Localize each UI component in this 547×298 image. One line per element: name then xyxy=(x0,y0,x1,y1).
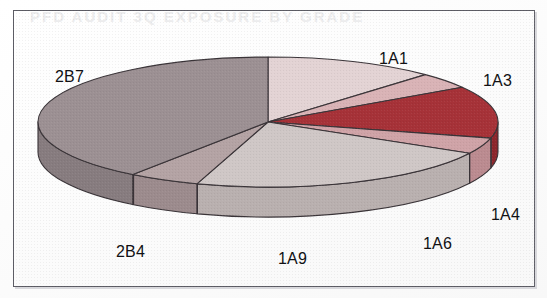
pie-label-1a4: 1A4 xyxy=(491,206,520,224)
pie-label-1a6: 1A6 xyxy=(423,235,452,253)
pie-chart-page: PFD AUDIT 3Q EXPOSURE BY GRADE 1A11A31A4… xyxy=(0,0,547,298)
pie-chart-graphic xyxy=(13,10,535,287)
pie-top-faces xyxy=(38,57,498,187)
chart-area: 1A11A31A41A61A92B42B7 xyxy=(13,10,535,287)
pie-label-1a9: 1A9 xyxy=(278,250,307,268)
pie-label-1a3: 1A3 xyxy=(483,72,512,90)
pie-label-2b7: 2B7 xyxy=(55,68,84,86)
pie-label-2b4: 2B4 xyxy=(116,243,145,261)
pie-label-1a1: 1A1 xyxy=(379,50,408,68)
